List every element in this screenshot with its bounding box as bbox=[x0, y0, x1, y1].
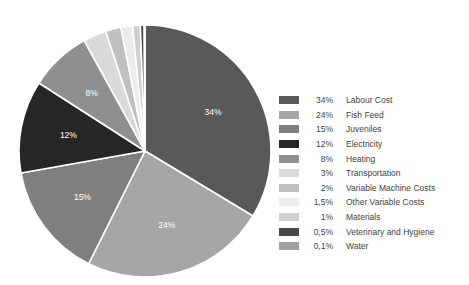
legend-item[interactable]: 24%Fish Feed bbox=[279, 108, 467, 123]
legend-label: Veterinary and Hygiene bbox=[335, 227, 434, 237]
legend-percent: 24% bbox=[299, 110, 335, 120]
legend-label: Electricity bbox=[335, 139, 382, 149]
legend-item[interactable]: 0,5%Veterinary and Hygiene bbox=[279, 224, 467, 239]
legend-label: Transportation bbox=[335, 168, 401, 178]
legend-item[interactable]: 0,1%Water bbox=[279, 239, 467, 254]
legend-label: Other Variable Costs bbox=[335, 197, 424, 207]
legend-label: Labour Cost bbox=[335, 95, 392, 105]
legend-item[interactable]: 3%Transportation bbox=[279, 166, 467, 181]
legend-item[interactable]: 15%Juveniles bbox=[279, 122, 467, 137]
legend-percent: 2% bbox=[299, 183, 335, 193]
legend-percent: 12% bbox=[299, 139, 335, 149]
legend-item[interactable]: 34%Labour Cost bbox=[279, 93, 467, 108]
legend-percent: 1% bbox=[299, 212, 335, 222]
legend-percent: 34% bbox=[299, 95, 335, 105]
legend-percent: 3% bbox=[299, 168, 335, 178]
legend-percent: 0,1% bbox=[299, 241, 335, 251]
legend-item[interactable]: 2%Variable Machine Costs bbox=[279, 181, 467, 196]
legend-color-swatch bbox=[279, 140, 299, 148]
legend-label: Water bbox=[335, 241, 368, 251]
legend-label: Variable Machine Costs bbox=[335, 183, 435, 193]
pie-slice[interactable] bbox=[144, 25, 145, 151]
legend-item[interactable]: 1%Materials bbox=[279, 210, 467, 225]
legend-label: Juveniles bbox=[335, 124, 381, 134]
legend-color-swatch bbox=[279, 125, 299, 133]
legend-percent: 15% bbox=[299, 124, 335, 134]
legend-item[interactable]: 1,5%Other Variable Costs bbox=[279, 195, 467, 210]
legend-label: Fish Feed bbox=[335, 110, 384, 120]
legend-color-swatch bbox=[279, 198, 299, 206]
legend-item[interactable]: 12%Electricity bbox=[279, 137, 467, 152]
legend-color-swatch bbox=[279, 96, 299, 104]
legend-color-swatch bbox=[279, 228, 299, 236]
legend-color-swatch bbox=[279, 155, 299, 163]
legend-label: Materials bbox=[335, 212, 380, 222]
chart-legend: 34%Labour Cost24%Fish Feed15%Juveniles12… bbox=[279, 93, 467, 254]
legend-color-swatch bbox=[279, 111, 299, 119]
legend-percent: 1,5% bbox=[299, 197, 335, 207]
legend-color-swatch bbox=[279, 169, 299, 177]
legend-color-swatch bbox=[279, 242, 299, 250]
pie-chart-figure: 34%24%15%12%8% 34%Labour Cost24%Fish Fee… bbox=[0, 0, 469, 285]
legend-label: Heating bbox=[335, 154, 375, 164]
legend-item[interactable]: 8%Heating bbox=[279, 151, 467, 166]
legend-percent: 8% bbox=[299, 154, 335, 164]
legend-percent: 0,5% bbox=[299, 227, 335, 237]
legend-color-swatch bbox=[279, 213, 299, 221]
legend-color-swatch bbox=[279, 184, 299, 192]
